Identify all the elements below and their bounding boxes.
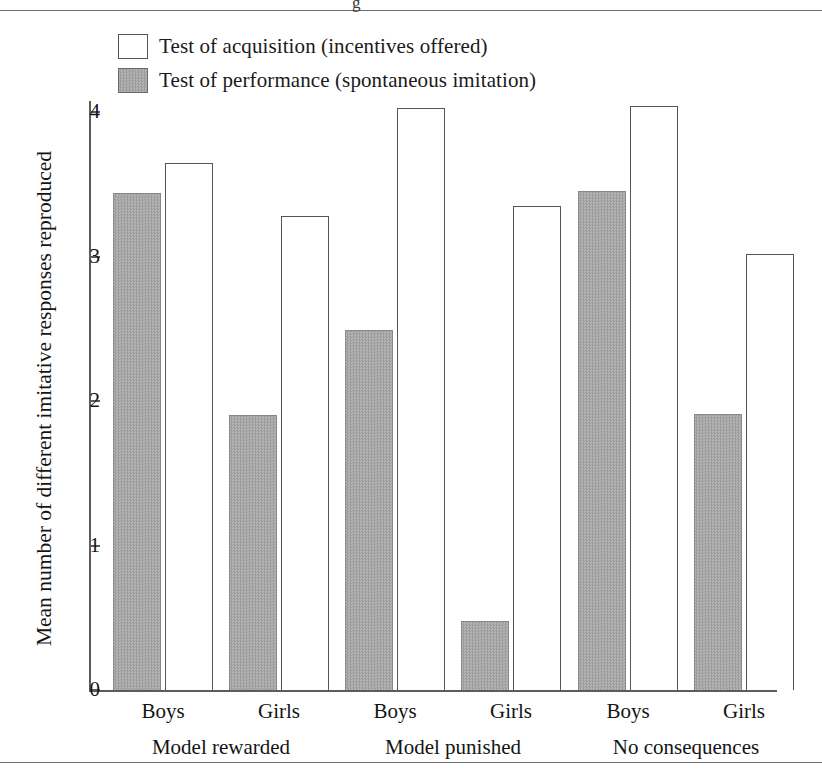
bar-performance-3: [461, 621, 509, 690]
x-group-label-2: No consequences: [566, 735, 806, 760]
bar-performance-5: [694, 414, 742, 690]
x-label-boys-0: Boys: [103, 699, 223, 724]
bar-series-container: [0, 11, 822, 761]
x-label-boys-4: Boys: [568, 699, 688, 724]
x-label-girls-5: Girls: [684, 699, 804, 724]
bar-acquisition-5: [746, 254, 794, 690]
x-label-girls-1: Girls: [219, 699, 339, 724]
bar-performance-1: [229, 415, 277, 690]
x-group-label-0: Model rewarded: [101, 735, 341, 760]
figure-bar-chart: Test of acquisition (incentives offered)…: [0, 11, 822, 761]
bar-acquisition-3: [513, 206, 561, 690]
x-group-label-1: Model punished: [333, 735, 573, 760]
x-label-boys-2: Boys: [335, 699, 455, 724]
x-label-girls-3: Girls: [451, 699, 571, 724]
page-rule-bottom: [0, 762, 822, 763]
bar-acquisition-1: [281, 216, 329, 690]
bar-performance-2: [345, 330, 393, 690]
bar-acquisition-4: [630, 106, 678, 690]
bar-performance-0: [113, 193, 161, 690]
bar-acquisition-0: [165, 163, 213, 690]
bar-acquisition-2: [397, 108, 445, 690]
bar-performance-4: [578, 191, 626, 690]
